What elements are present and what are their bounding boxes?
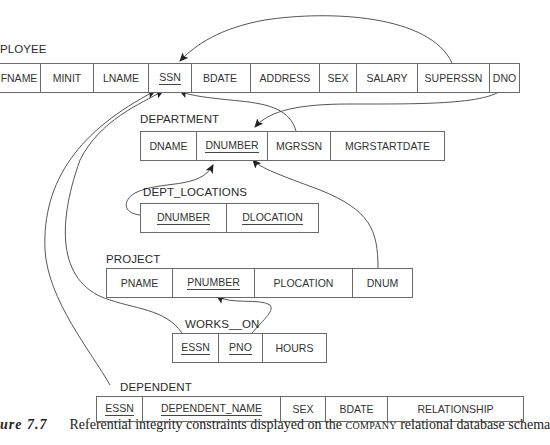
column-dnumber: DNUMBER [141,204,227,232]
arrow-pno-to-pnumber [217,296,271,338]
column-dno: DNO [490,64,519,92]
column-ssn: SSN [149,64,192,92]
caption-text-after: relational database schema [397,417,550,432]
column-sex: SEX [320,64,357,92]
relation-works-on: ESSN PNO HOURS [172,333,327,363]
relation-employee-cont: ADDRESS SEX SALARY SUPERSSN DNO [250,63,520,93]
column-minit: MINIT [41,64,94,92]
column-dlocation: DLOCATION [227,204,318,232]
figure-caption: ure 7.7Referential integrity constraints… [0,417,541,433]
relation-label-dept-locations: DEPT_LOCATIONS [143,186,247,198]
column-plocation: PLOCATION [255,269,353,297]
column-dnum: DNUM [353,269,412,297]
relation-project: PNAME PNUMBER PLOCATION DNUM [106,268,413,298]
column-address: ADDRESS [251,64,320,92]
relation-label-dependent: DEPENDENT [120,381,192,393]
figure-number: ure 7.7 [0,417,47,432]
relation-label-works-on: WORKS__ON [185,318,259,330]
column-mgrssn: MGRSSN [268,132,331,160]
column-dname: DNAME [141,132,197,160]
column-pname: PNAME [107,269,173,297]
column-lname: LNAME [94,64,149,92]
arrow-superssn-to-ssn [180,16,452,63]
relation-label-employee: PLOYEE [0,43,47,55]
column-essn: ESSN [173,334,219,362]
column-mgrstartdate: MGRSTARTDATE [331,132,444,160]
relation-dept-locations: DNUMBER DLOCATION [140,203,319,233]
relation-label-department: DEPARTMENT [140,113,219,125]
column-fname: FNAME [0,64,41,92]
column-hours: HOURS [263,334,326,362]
column-dnumber: DNUMBER [197,132,268,160]
caption-smallcaps: COMPANY [346,420,397,431]
arrow-depessn-to-ssn [45,91,155,385]
relation-employee: FNAME MINIT LNAME SSN BDATE [0,63,252,93]
column-superssn: SUPERSSN [418,64,490,92]
relation-label-project: PROJECT [106,253,160,265]
column-pnumber: PNUMBER [173,269,255,297]
relation-department: DNAME DNUMBER MGRSSN MGRSTARTDATE [140,131,445,161]
column-salary: SALARY [357,64,418,92]
arrow-mgrssn-to-ssn [180,91,296,131]
column-pno: PNO [219,334,263,362]
column-bdate: BDATE [192,64,248,92]
caption-text-before: Referential integrity constraints displa… [69,417,345,432]
